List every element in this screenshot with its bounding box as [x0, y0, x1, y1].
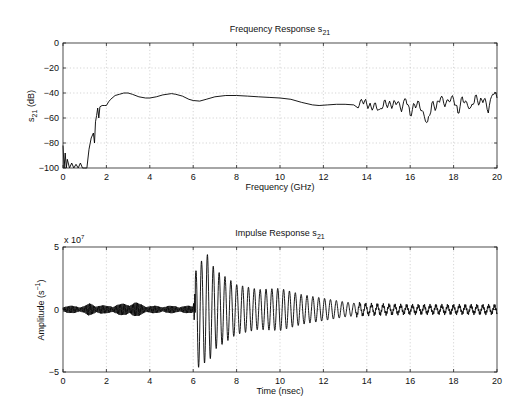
y-tick-label: 5 [54, 242, 59, 252]
impulse-y-axis-label: Amplitude (s−1) [34, 279, 46, 340]
frequency-chart-title: Frequency Response s21 [230, 24, 330, 36]
frequency-x-ticks: 02468101214161820 [60, 43, 502, 182]
x-tick-label: 16 [405, 376, 415, 386]
x-tick-label: 8 [234, 376, 239, 386]
x-tick-label: 2 [104, 376, 109, 386]
x-tick-label: 4 [147, 172, 152, 182]
x-tick-label: 8 [234, 172, 239, 182]
x-tick-label: 18 [449, 376, 459, 386]
x-tick-label: 6 [191, 376, 196, 386]
x-tick-label: 4 [147, 376, 152, 386]
y-tick-label: −5 [49, 367, 59, 377]
x-tick-label: 12 [318, 376, 328, 386]
y-tick-label: −40 [44, 88, 59, 98]
y-tick-label: 0 [54, 38, 59, 48]
x-tick-label: 0 [60, 172, 65, 182]
x-tick-label: 14 [362, 376, 372, 386]
x-tick-label: 20 [492, 172, 502, 182]
x-tick-label: 16 [405, 172, 415, 182]
y-tick-label: −20 [44, 63, 59, 73]
impulse-y-multiplier: x 107 [64, 234, 85, 245]
x-tick-label: 14 [362, 172, 372, 182]
y-tick-label: −60 [44, 113, 59, 123]
x-tick-label: 20 [492, 376, 502, 386]
x-tick-label: 18 [449, 172, 459, 182]
x-tick-label: 12 [318, 172, 328, 182]
impulse-x-ticks: 02468101214161820 [60, 247, 502, 386]
figure: Frequency Response s21 02468101214161820… [0, 0, 527, 410]
x-tick-label: 0 [60, 376, 65, 386]
y-tick-label: 0 [54, 305, 59, 315]
y-tick-label: −100 [39, 163, 59, 173]
x-tick-label: 10 [275, 376, 285, 386]
frequency-y-ticks: 0−20−40−60−80−100 [39, 38, 497, 173]
x-tick-label: 6 [191, 172, 196, 182]
x-tick-label: 10 [275, 172, 285, 182]
frequency-x-axis-label: Frequency (GHz) [245, 182, 314, 192]
x-tick-label: 2 [104, 172, 109, 182]
frequency-response-chart: Frequency Response s21 02468101214161820… [26, 24, 502, 192]
y-tick-label: −80 [44, 138, 59, 148]
impulse-chart-title: Impulse Response s21 [235, 228, 324, 240]
impulse-x-axis-label: Time (nsec) [256, 386, 303, 396]
frequency-y-axis-label: s21 (dB) [26, 90, 38, 122]
frequency-response-line [63, 92, 497, 168]
impulse-response-chart: Impulse Response s21 x 107 0246810121416… [34, 228, 502, 396]
